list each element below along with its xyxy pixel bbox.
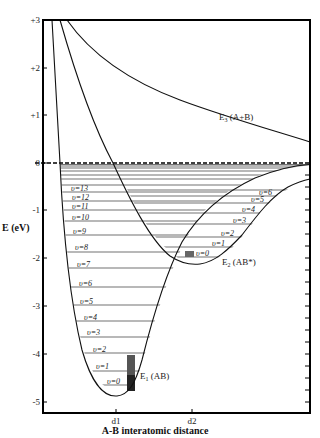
- e2-curve: [60, 20, 310, 264]
- e1-level-labels: υ=0 υ=1 υ=2 υ=3 υ=4 υ=5 υ=6 υ=7 υ=8 υ=9 …: [71, 184, 120, 386]
- level-label: υ=10: [72, 213, 89, 222]
- level-label: υ=1: [96, 362, 109, 371]
- level-label: υ=4: [84, 313, 97, 322]
- level-label: υ=2: [93, 345, 106, 354]
- level-label: υ=6: [259, 188, 272, 197]
- e2-label: E2 (AB*): [222, 257, 256, 268]
- level-label: υ=2: [221, 229, 234, 238]
- e2-level-labels: υ=0 υ=1 υ=2 υ=3 υ=4 υ=5 υ=6: [196, 188, 272, 258]
- y-tick-label: -3: [33, 301, 41, 311]
- y-tick-label: -2: [33, 253, 41, 263]
- y-axis: +3 +2 +1 0 -1 -2 -3 -4 -5: [30, 15, 47, 407]
- level-label: υ=0: [107, 377, 120, 386]
- e1-curve: [52, 20, 310, 396]
- y-axis-title: E (eV): [2, 222, 30, 234]
- e1-transition-hatch: [127, 355, 135, 391]
- level-label: υ=3: [233, 216, 246, 225]
- y-tick-label: -5: [33, 397, 41, 407]
- level-label: υ=3: [87, 328, 100, 337]
- level-label: υ=0: [196, 249, 209, 258]
- level-label: υ=1: [212, 239, 225, 248]
- level-label: υ=5: [80, 297, 93, 306]
- e3-label: E3 (A+B): [219, 112, 253, 123]
- e3-curve: [67, 20, 310, 142]
- level-label: υ=4: [242, 205, 255, 214]
- level-label: υ=8: [75, 243, 88, 252]
- x-axis: d1 d2: [112, 409, 197, 426]
- potential-energy-diagram: +3 +2 +1 0 -1 -2 -3 -4 -5 d1 d: [0, 0, 320, 438]
- level-label: υ=12: [72, 193, 89, 202]
- y-tick-label: 0: [36, 158, 41, 168]
- e2-transition-hatch: [185, 251, 194, 257]
- level-label: υ=7: [77, 260, 91, 269]
- level-label: υ=11: [72, 202, 88, 211]
- level-label: υ=6: [79, 279, 92, 288]
- y-tick-label: +1: [30, 110, 40, 120]
- y-tick-label: +3: [30, 15, 40, 25]
- y-tick-label: +2: [30, 63, 40, 73]
- level-label: υ=13: [71, 184, 88, 193]
- e1-label: E1 (AB): [140, 371, 169, 382]
- x-axis-title: A-B interatomic distance: [102, 425, 209, 436]
- y-tick-label: -4: [33, 349, 41, 359]
- e2-levels: [100, 190, 320, 257]
- level-label: υ=9: [73, 227, 86, 236]
- y-tick-label: -1: [33, 205, 41, 215]
